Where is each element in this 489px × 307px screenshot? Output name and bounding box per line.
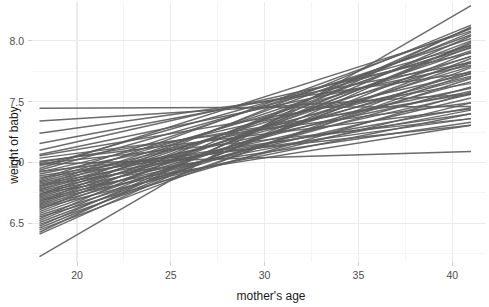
x-tick-label: 35 <box>353 269 365 281</box>
chart-container: 2025303540 6.57.07.58.0 mother's age wei… <box>0 0 489 307</box>
y-tick-label: 7.5 <box>9 96 24 108</box>
x-tick-label: 30 <box>259 269 271 281</box>
x-tick-label: 40 <box>446 269 458 281</box>
y-tick-label: 6.5 <box>9 217 24 229</box>
x-tick-label: 20 <box>71 269 83 281</box>
x-tick-label: 25 <box>165 269 177 281</box>
spaghetti-plot-svg: 2025303540 6.57.07.58.0 mother's age wei… <box>0 0 489 307</box>
x-axis-title: mother's age <box>237 289 306 303</box>
y-axis-title: weight of baby <box>7 106 21 184</box>
y-tick-label: 8.0 <box>9 35 24 47</box>
